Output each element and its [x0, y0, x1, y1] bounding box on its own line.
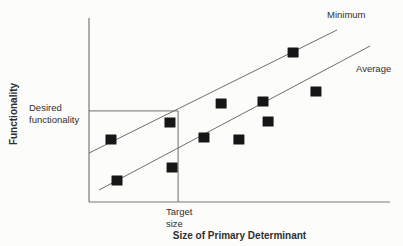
x-axis-title: Size of Primary Determinant	[89, 230, 390, 242]
minimum-line-label: Minimum	[327, 9, 366, 21]
data-point-marker	[233, 134, 244, 144]
target-size-label: Target size	[166, 206, 192, 229]
desired-functionality-label: Desired functionality	[29, 102, 79, 125]
average-line-label: Average	[356, 63, 391, 75]
scatter-figure: Functionality Desired functionality Mini…	[0, 0, 403, 246]
data-point-marker	[164, 118, 175, 128]
minimum-trend-line	[89, 30, 337, 153]
data-point-marker	[111, 176, 122, 186]
data-point-marker	[216, 98, 227, 108]
average-trend-line	[99, 46, 370, 190]
data-point-marker	[105, 134, 116, 144]
data-point-marker	[288, 47, 299, 57]
data-point-marker	[310, 86, 321, 96]
y-axis-title: Functionality	[8, 83, 20, 145]
data-point-marker	[198, 132, 209, 142]
data-point-marker	[257, 97, 268, 107]
data-point-marker	[263, 116, 274, 126]
data-point-marker	[167, 162, 178, 172]
